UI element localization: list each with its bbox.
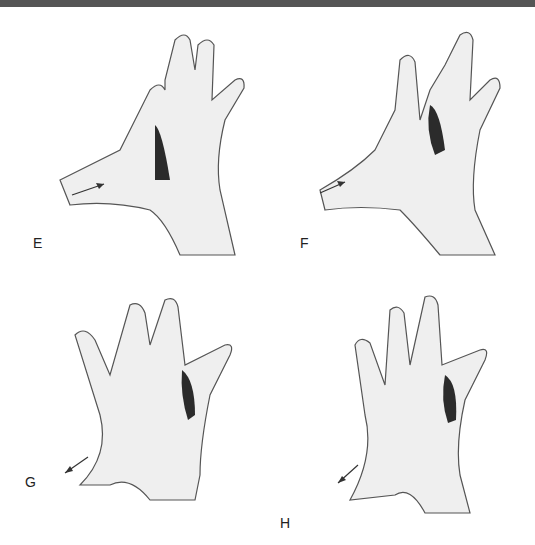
panel-g: G [0,285,280,545]
panel-e: E [0,10,265,260]
hand-illustration-f [265,10,535,260]
panel-label-f: F [300,235,309,251]
hand-illustration-h [280,285,535,545]
panel-label-h: H [280,515,290,531]
hand-illustration-g [0,285,280,545]
panel-label-g: G [25,474,36,490]
panel-f: F [265,10,535,260]
hand-illustration-e [0,10,265,260]
header-banner [0,0,535,7]
panel-h: H [280,285,535,545]
panel-label-e: E [33,235,42,251]
